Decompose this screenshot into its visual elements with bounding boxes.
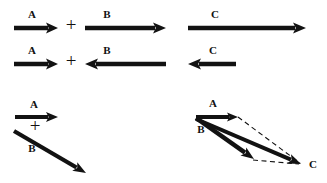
vector-a-label: A [209, 97, 217, 109]
vector-addition-figure: A + B C A + B [0, 0, 327, 183]
vector-c-arrow [188, 23, 306, 34]
row-same-direction: A + B C [14, 8, 306, 35]
vector-b-arrow [85, 59, 166, 70]
vector-c-label: C [211, 8, 219, 20]
vector-b-label: B [103, 8, 111, 20]
vector-c-label: C [209, 44, 217, 56]
vector-a-label: A [30, 98, 38, 110]
row-opposite-direction: A + B C [14, 44, 236, 71]
plus-operator: + [66, 50, 77, 71]
vector-a-arrow [14, 23, 58, 34]
vector-diagram-canvas: A + B C A + B [0, 0, 327, 183]
row-angled-operands: A + B [14, 98, 86, 173]
vector-a-label: A [28, 8, 36, 20]
vector-b-shaft [14, 131, 76, 167]
vector-a-arrow [14, 59, 58, 70]
vector-a-label: A [28, 44, 36, 56]
vector-c-resultant-label: C [309, 158, 317, 170]
vector-c-arrow [188, 59, 236, 70]
vector-b-label: B [103, 44, 111, 56]
vector-b-label: B [197, 123, 205, 135]
vector-b-arrow [85, 23, 166, 34]
vector-b-arrow [14, 131, 86, 173]
vector-b-label: B [28, 142, 36, 154]
parallelogram-resultant: A B C [196, 97, 317, 170]
plus-operator: + [30, 115, 41, 136]
plus-operator: + [66, 14, 77, 35]
